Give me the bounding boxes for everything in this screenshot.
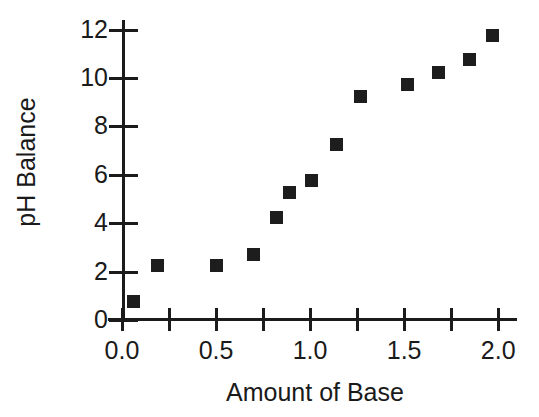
x-axis-tick-label: 1.5 [369,338,439,363]
y-axis-tick [109,77,138,80]
y-axis-title: pH Balance [6,12,46,312]
data-point [401,78,414,91]
x-axis-tick-label: 0.0 [87,338,157,363]
y-axis-tick-label: 8 [68,113,108,138]
chart-container: pH Balance 024681012 0.00.51.01.52.0 Amo… [0,0,539,417]
y-axis-tick-label: 10 [68,65,108,90]
data-point [330,138,343,151]
y-axis-tick-label: 4 [68,210,108,235]
data-point [486,29,499,42]
y-axis-tick [109,271,138,274]
data-point [270,211,283,224]
data-point [127,295,140,308]
x-axis-tick [309,308,312,331]
x-axis-tick [215,308,218,331]
y-axis-tick [109,29,138,32]
data-point [151,259,164,272]
data-point [305,174,318,187]
x-axis-tick-label: 2.0 [463,338,533,363]
x-axis-tick-label: 1.0 [275,338,345,363]
x-axis-tick [121,308,124,331]
data-point [210,259,223,272]
y-axis-line [122,20,125,320]
x-axis-minor-tick [356,308,359,331]
x-axis-tick [403,308,406,331]
y-axis-tick-label: 12 [68,17,108,42]
x-axis-tick [497,308,500,331]
y-axis-tick-label: 2 [68,259,108,284]
y-axis-tick [109,222,138,225]
y-axis-tick-label: 6 [68,162,108,187]
x-axis-minor-tick [262,308,265,331]
y-axis-tick-label: 0 [68,307,108,332]
y-axis-tick [109,174,138,177]
data-point [432,66,445,79]
x-axis-tick-label: 0.5 [181,338,251,363]
data-point [283,186,296,199]
y-axis-tick-labels: 024681012 [52,20,108,320]
x-axis-minor-tick [168,308,171,331]
data-point [463,53,476,66]
plot-area: 0.00.51.01.52.0 [122,20,517,320]
x-axis-title: Amount of Base [120,378,510,407]
data-point [247,248,260,261]
x-axis-minor-tick [450,308,453,331]
data-point [354,90,367,103]
y-axis-tick [109,125,138,128]
